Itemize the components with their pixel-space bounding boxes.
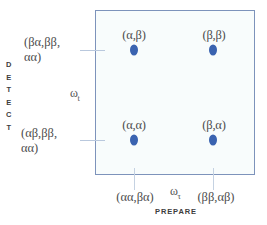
axis-title-prepare: PREPARE <box>155 207 197 216</box>
detect-letter-0: D <box>6 59 11 72</box>
axis-title-detect: D E T E C T <box>6 59 11 134</box>
detect-letter-2: T <box>6 84 11 97</box>
detect-tick-label-upper-line2: αα) <box>24 50 60 65</box>
peak-marker <box>130 45 138 56</box>
detect-letter-3: E <box>6 97 11 110</box>
tick-line-detect-upper <box>80 50 105 51</box>
detect-tick-label-lower: (αβ,ββ, αα) <box>21 126 57 156</box>
prepare-tick-label-left: (αα,βα) <box>116 190 153 205</box>
detect-letter-4: C <box>6 109 11 122</box>
tick-line-prepare-right <box>213 168 214 190</box>
omega-t-subscript: t <box>77 93 79 103</box>
peak-marker <box>209 45 217 56</box>
detect-letter-1: E <box>6 72 11 85</box>
detect-tick-label-lower-line1: (αβ,ββ, <box>21 126 57 141</box>
prepare-tick-label-right: (ββ,αβ) <box>197 190 234 205</box>
peak-marker <box>130 135 138 146</box>
plot-area <box>95 10 255 175</box>
two-dimensional-spectrum-figure: (α,β) (β,β) (α,α) (β,α) (βα,ββ, αα) (αβ,… <box>0 0 267 225</box>
peak-label-beta-beta: (β,β) <box>202 28 225 43</box>
detect-tick-label-upper: (βα,ββ, αα) <box>24 35 60 65</box>
peak-label-alpha-alpha: (α,α) <box>122 118 146 133</box>
detect-tick-label-upper-line1: (βα,ββ, <box>24 35 60 50</box>
peak-marker <box>209 135 217 146</box>
detect-tick-label-lower-line2: αα) <box>21 141 57 156</box>
detect-letter-5: T <box>6 122 11 135</box>
peak-label-beta-alpha: (β,α) <box>202 118 225 133</box>
omega-tau-label: ωτ <box>170 184 181 200</box>
tick-line-prepare-left <box>134 168 135 190</box>
omega-t-label: ωt <box>70 86 80 102</box>
tick-line-detect-lower <box>80 140 105 141</box>
peak-label-alpha-beta: (α,β) <box>122 28 145 43</box>
omega-tau-subscript: τ <box>177 191 180 201</box>
